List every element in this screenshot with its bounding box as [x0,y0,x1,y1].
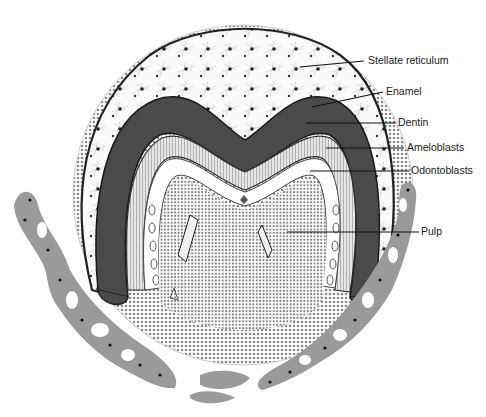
label-odontoblasts: Odontoblasts [411,165,473,176]
label-stellate-reticulum: Stellate reticulum [368,55,449,66]
label-dentin: Dentin [398,117,428,128]
label-pulp: Pulp [421,226,442,237]
tooth-germ-diagram: Stellate reticulum Enamel Dentin Amelobl… [0,0,486,417]
label-ameloblasts: Ameloblasts [407,142,464,153]
pulp-region [159,179,326,330]
label-enamel: Enamel [386,86,422,97]
